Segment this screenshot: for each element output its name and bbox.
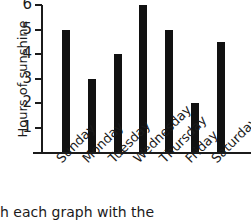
sunshine-bar-chart: Hours of sunshine 123456 SundayMondayTue… xyxy=(0,0,251,198)
y-tick-label-6: 6 xyxy=(10,0,32,12)
screenshot-root: Hours of sunshine 123456 SundayMondayTue… xyxy=(0,0,251,223)
y-tick-label-1: 1 xyxy=(10,120,32,135)
y-tick-4 xyxy=(35,53,42,55)
page-caption: h each graph with the xyxy=(0,204,251,220)
y-tick-2 xyxy=(35,102,42,104)
y-tick-label-4: 4 xyxy=(10,46,32,61)
y-tick-6 xyxy=(35,4,42,6)
y-tick-1 xyxy=(35,127,42,129)
y-tick-label-2: 2 xyxy=(10,95,32,110)
y-tick-3 xyxy=(35,78,42,80)
bar-sunday xyxy=(62,30,70,153)
y-tick-label-5: 5 xyxy=(10,22,32,37)
y-tick-label-3: 3 xyxy=(10,71,32,86)
y-tick-5 xyxy=(35,29,42,31)
